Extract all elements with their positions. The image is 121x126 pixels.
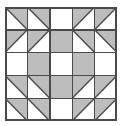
- shaded-square: [50, 30, 72, 53]
- quilt-block-figure: Quilt Block Pattern: [0, 0, 121, 126]
- shaded-square: [72, 53, 94, 76]
- quilt-grid-svg: [5, 7, 117, 121]
- quilt-cell: [50, 75, 72, 98]
- quilt-cell: [50, 30, 72, 53]
- shaded-square: [50, 75, 72, 98]
- quilt-cell: [72, 53, 94, 76]
- shaded-square: [27, 53, 49, 76]
- quilt-cell: [27, 53, 49, 76]
- quilt-block-frame: [5, 7, 117, 121]
